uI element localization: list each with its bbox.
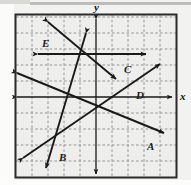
x-axis-label: x bbox=[180, 91, 186, 102]
line-label-d: D bbox=[136, 90, 144, 101]
y-axis-label: y bbox=[94, 2, 99, 13]
line-label-c: C bbox=[124, 64, 131, 75]
coordinate-plane bbox=[0, 0, 191, 185]
line-label-b: B bbox=[59, 152, 66, 163]
line-label-e: E bbox=[42, 38, 49, 49]
line-label-a: A bbox=[147, 141, 154, 152]
figure-canvas: y x ABCDE bbox=[0, 0, 191, 185]
